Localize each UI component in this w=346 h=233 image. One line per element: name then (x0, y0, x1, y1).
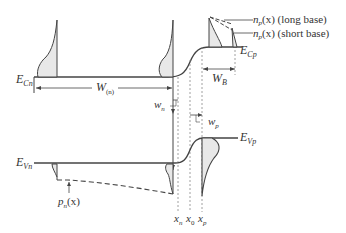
np-long-base-curve (209, 18, 222, 47)
evn-label: EVn (15, 155, 32, 171)
evp-label: EVp (239, 130, 256, 146)
arrowhead-icon (171, 109, 175, 114)
pn-label: pn(x) (57, 195, 80, 210)
xp-label: xp (197, 212, 207, 227)
wb-label: WB (212, 71, 227, 87)
electron-distribution-junction (159, 20, 173, 77)
pn-dashed-curve (57, 180, 173, 194)
np-short-label: np(x) (short base) (253, 27, 330, 41)
x0-label: x0 (185, 212, 195, 227)
wp-small-label: wp (208, 115, 219, 130)
wn-width-label: W(n) (96, 80, 115, 96)
arrowhead-icon (36, 86, 41, 90)
band-diagram: np(x) (long base) np(x) (short base) ECn… (0, 0, 346, 233)
wn-small-label: wn (154, 98, 165, 113)
ecn-label: ECn (15, 72, 33, 88)
conduction-band-transition (168, 47, 242, 77)
electron-distribution-left (37, 20, 57, 77)
hole-distribution-junction-n (166, 164, 173, 194)
hole-distribution-p (202, 138, 219, 196)
arrowhead-icon (167, 86, 172, 90)
np-long-label: np(x) (long base) (253, 13, 327, 27)
ecp-label: ECp (239, 43, 257, 59)
arrowhead-icon (67, 182, 71, 186)
arrowhead-icon (203, 67, 208, 71)
np-short-base-curve (232, 28, 237, 47)
arrowhead-icon (230, 67, 235, 71)
hole-distribution-left (52, 164, 57, 177)
xn-label: xn (173, 212, 183, 227)
arrowhead-icon (198, 113, 202, 117)
